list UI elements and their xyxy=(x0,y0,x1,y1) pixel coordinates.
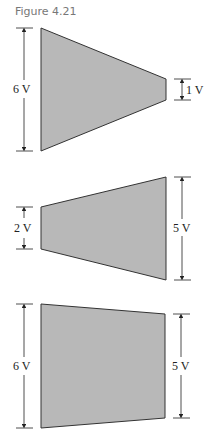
shape-3 xyxy=(41,304,165,428)
shape-2 xyxy=(41,177,166,280)
label-right-2: 5 V xyxy=(173,221,191,235)
label-right-3: 5 V xyxy=(172,359,190,373)
figure-3: 6 V 5 V xyxy=(13,304,190,428)
label-left-3: 6 V xyxy=(13,359,31,373)
figure-2: 2 V 5 V xyxy=(14,177,191,280)
figure-1: 6 V 1 V xyxy=(13,28,204,151)
label-right-1: 1 V xyxy=(186,83,204,97)
label-left-1: 6 V xyxy=(13,82,31,96)
label-left-2: 2 V xyxy=(14,221,32,235)
shape-1 xyxy=(41,28,166,151)
diagram-canvas: 6 V 1 V 2 V 5 V xyxy=(0,0,211,439)
